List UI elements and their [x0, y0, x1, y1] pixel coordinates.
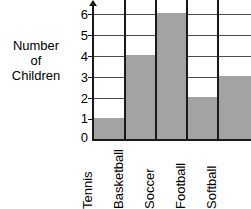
y-axis-tick-labels: 6 5 4 3 2 1 0: [74, 0, 88, 145]
y-tick-mark-2: [88, 98, 93, 99]
bar-chart: Number of Children 6 5 4 3 2 1 0: [0, 0, 251, 209]
plot-area: [94, 0, 251, 141]
bar-soccer: [156, 13, 187, 139]
column-separator-1: [124, 0, 126, 141]
y-tick-label-4: 4: [74, 50, 88, 63]
y-tick-label-5: 5: [74, 29, 88, 42]
bar-football: [187, 97, 218, 139]
y-tick-label-1: 1: [74, 112, 88, 125]
x-label-basketball: Basketball: [112, 149, 125, 209]
x-label-football: Football: [174, 163, 187, 209]
y-tick-mark-3: [88, 77, 93, 78]
column-separator-4: [217, 0, 219, 141]
x-label-soccer: Soccer: [143, 169, 156, 209]
y-tick-label-0: 0: [74, 131, 88, 144]
y-tick-label-2: 2: [74, 92, 88, 105]
y-axis-title: Number of Children: [0, 38, 72, 83]
x-axis-category-labels: Tennis Basketball Soccer Football Softba…: [94, 143, 251, 209]
column-separator-3: [186, 0, 188, 141]
y-tick-label-3: 3: [74, 71, 88, 84]
x-axis-baseline: [94, 139, 251, 141]
y-tick-mark-5: [88, 35, 93, 36]
y-tick-label-6: 6: [74, 8, 88, 21]
y-tick-mark-4: [88, 56, 93, 57]
y-tick-mark-6: [88, 14, 93, 15]
column-separator-2: [155, 0, 157, 141]
y-axis-title-line-3: Children: [0, 68, 72, 83]
bar-basketball: [125, 55, 156, 139]
x-label-tennis: Tennis: [81, 171, 94, 209]
x-label-slot-softball: Softball: [218, 143, 249, 209]
bar-softball: [218, 76, 251, 139]
x-label-softball: Softball: [205, 166, 218, 209]
y-axis-title-line-1: Number: [0, 38, 72, 53]
y-axis-title-line-2: of: [0, 53, 72, 68]
y-tick-mark-1: [88, 119, 93, 120]
bar-tennis: [94, 118, 125, 139]
